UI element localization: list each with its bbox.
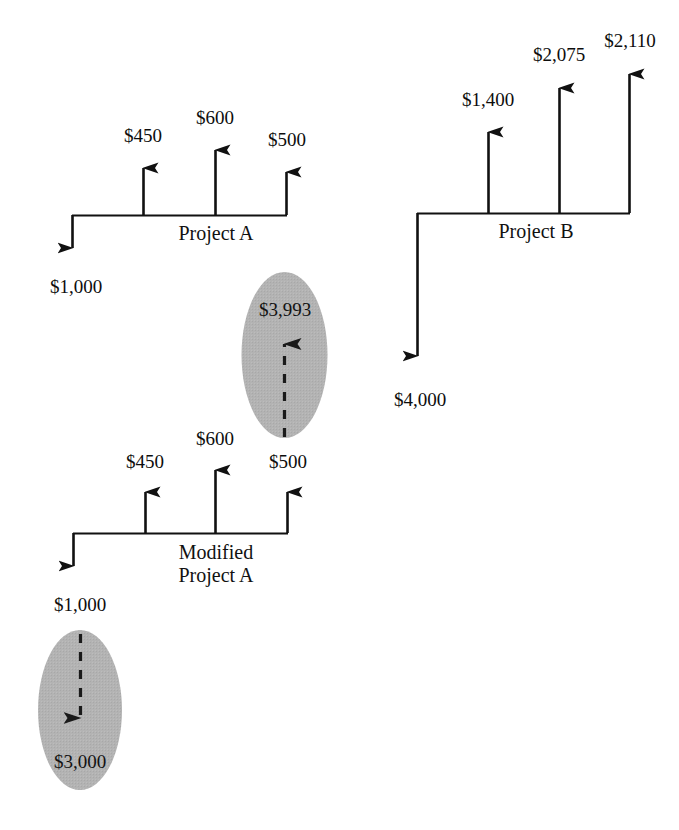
incremental-inflow-amount-label: $3,993 [259, 300, 311, 319]
modified-project-a-title-line-2: Project A [179, 564, 254, 586]
modified-project-a-title-line-1: Modified [179, 541, 253, 563]
project-a-title: Project A [179, 222, 254, 244]
project-b-inflow-label-2: $2,075 [533, 45, 585, 64]
project-a-outflow-label: $1,000 [50, 277, 102, 296]
cash-flow-diagram-canvas: $450 $600 $500 Project A $1,000 $1,400 $… [0, 0, 679, 830]
modified-project-a-inflow-label-3: $500 [269, 452, 307, 471]
modified-project-a-outflow-label: $1,000 [54, 595, 106, 614]
modified-project-a-inflow-label-1: $450 [126, 452, 164, 471]
project-b-outflow-label: $4,000 [394, 390, 446, 409]
project-b-inflow-label-3: $2,110 [604, 31, 656, 50]
project-a-inflow-label-1: $450 [124, 126, 162, 145]
project-b-title: Project B [499, 220, 574, 242]
project-b-inflow-label-1: $1,400 [462, 90, 514, 109]
incremental-outflow-amount-label: $3,000 [54, 752, 106, 771]
project-b-timeline [417, 74, 630, 356]
project-a-inflow-label-3: $500 [268, 130, 306, 149]
modified-project-a-inflow-label-2: $600 [196, 429, 234, 448]
diagram-vector-layer [0, 0, 679, 830]
project-a-inflow-label-2: $600 [196, 108, 234, 127]
